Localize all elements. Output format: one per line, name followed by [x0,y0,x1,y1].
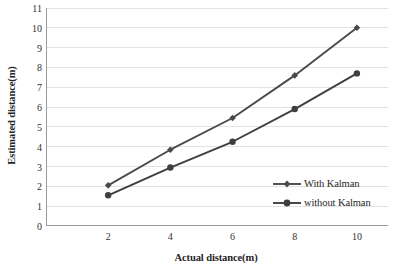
legend-item-label: without Kalman [302,197,371,208]
y-axis-title-text: Estimated distance(m) [6,66,17,165]
circle-marker-icon [272,196,302,210]
data-point-marker [105,192,111,198]
x-axis-tick-label: 2 [88,231,128,242]
y-axis-tick-label: 1 [20,201,42,212]
chart-legend: With Kalmanwithout Kalman [272,174,400,212]
data-point-marker [229,139,235,145]
legend-item-label: With Kalman [302,178,359,189]
y-axis-tick-label: 0 [20,221,42,232]
y-axis-tick-label: 9 [20,42,42,53]
x-axis-tick-label: 10 [337,231,377,242]
y-axis-tick-label: 2 [20,181,42,192]
legend-item-1[interactable]: With Kalman [272,174,400,193]
diamond-marker-icon [272,177,302,191]
x-axis-tick-label: 8 [275,231,315,242]
y-axis-tick-label: 8 [20,62,42,73]
x-axis-title: Actual distance(m) [44,252,388,263]
x-axis-tick-labels: 246810 [0,231,408,247]
y-axis-tick-label: 11 [20,3,42,14]
y-axis-tick-label: 6 [20,102,42,113]
y-axis-tick-label: 5 [20,121,42,132]
y-axis-tick-label: 10 [20,22,42,33]
data-point-marker [292,106,298,112]
data-series-layer [105,25,360,199]
y-axis-tick-label: 3 [20,161,42,172]
legend-item-2[interactable]: without Kalman [272,193,400,212]
chart-figure: Estimated distance(m) 01234567891011 246… [0,0,408,275]
x-axis-tick-label: 4 [150,231,190,242]
data-point-marker [167,164,173,170]
x-axis-tick-label: 6 [213,231,253,242]
y-axis-tick-label: 7 [20,82,42,93]
data-point-marker [354,70,360,76]
y-axis-tick-label: 4 [20,141,42,152]
